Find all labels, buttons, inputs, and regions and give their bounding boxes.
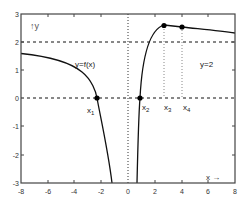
y-tick-label: 2 — [15, 39, 19, 46]
y-tick-label: 1 — [15, 67, 19, 74]
point-x1 — [94, 95, 99, 100]
x-tick-label: 8 — [233, 188, 237, 195]
x4-label: x4 — [183, 103, 191, 113]
point-x4 — [179, 24, 184, 29]
x-tick-label: -8 — [18, 188, 24, 195]
chart: 3 2 1 0 -1 -2 -3 -8 -6 -4 -2 0 2 4 6 8 ↑… — [0, 0, 250, 201]
x3-label: x3 — [164, 103, 172, 113]
y-tick-label: -1 — [13, 123, 19, 130]
x-tick-label: -6 — [45, 188, 51, 195]
y-axis-label: ↑y — [30, 21, 40, 31]
y-tick-label: 0 — [15, 95, 19, 102]
y-tick-label: 3 — [15, 11, 19, 18]
x-tick-label: 6 — [206, 188, 210, 195]
curve-label: y=f(x) — [75, 60, 96, 69]
x1-label: x1 — [87, 106, 95, 116]
x-tick-label: 2 — [153, 188, 157, 195]
y-tick-label: -3 — [13, 180, 19, 187]
asymptote-label: y=2 — [200, 60, 214, 69]
point-x2 — [137, 95, 142, 100]
x-tick-label: -2 — [98, 188, 104, 195]
x-tick-label: 4 — [180, 188, 184, 195]
x2-label: x2 — [142, 103, 150, 113]
point-x3 — [161, 23, 166, 28]
y-tick-label: -2 — [13, 152, 19, 159]
x-tick-label: 0 — [126, 188, 130, 195]
x-tick-label: -4 — [71, 188, 77, 195]
x-axis-label: x → — [206, 173, 220, 182]
curve-left-branch — [21, 54, 112, 184]
